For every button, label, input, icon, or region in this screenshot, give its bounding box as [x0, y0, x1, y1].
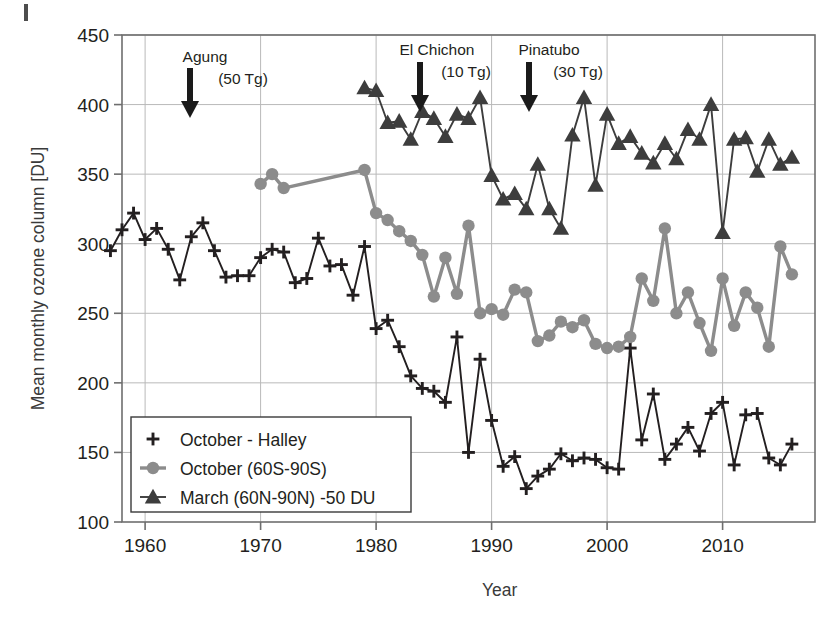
data-point-plus — [652, 388, 655, 401]
data-point-circle — [393, 225, 405, 237]
data-point-circle — [578, 314, 590, 326]
legend: October - HalleyOctober (60S-90S)March (… — [131, 417, 411, 512]
data-point-triangle — [403, 131, 419, 146]
data-point-circle — [786, 268, 798, 280]
data-point-plus — [352, 289, 355, 302]
annotation-arrow-head — [520, 95, 538, 112]
data-point-triangle — [472, 89, 488, 104]
data-point-plus — [698, 445, 701, 458]
annotation-mass: (30 Tg) — [553, 63, 603, 80]
data-point-circle — [147, 462, 159, 474]
data-point-plus — [767, 452, 770, 465]
data-point-triangle — [356, 80, 372, 95]
data-point-plus — [132, 207, 135, 220]
data-point-plus — [190, 230, 193, 243]
data-point-plus — [421, 382, 424, 395]
annotation-arrow-head — [411, 95, 429, 112]
data-point-plus — [152, 433, 155, 446]
data-point-circle — [740, 286, 752, 298]
data-point-plus — [617, 463, 620, 476]
legend-label: March (60N-90N) -50 DU — [180, 488, 375, 508]
y-tick-label: 200 — [77, 373, 109, 394]
data-point-plus — [248, 269, 251, 282]
data-point-plus — [305, 272, 308, 285]
data-point-plus — [121, 223, 124, 236]
data-point-plus — [559, 447, 562, 460]
annotation-arrow-head — [181, 101, 199, 118]
chart-canvas: 1001502002503003504004501960197019801990… — [0, 0, 836, 626]
data-point-triangle — [749, 163, 765, 178]
data-point-circle — [462, 219, 474, 231]
data-point-plus — [525, 482, 528, 495]
x-tick-label: 1970 — [239, 535, 281, 556]
data-point-triangle — [599, 106, 615, 121]
data-point-circle — [716, 272, 728, 284]
series-2 — [254, 164, 798, 357]
annotation-label: El Chichon — [400, 41, 475, 58]
data-point-circle — [254, 178, 266, 190]
data-point-plus — [225, 271, 228, 284]
data-point-plus — [109, 244, 112, 257]
data-point-plus — [328, 260, 331, 273]
data-point-plus — [710, 407, 713, 420]
data-point-circle — [682, 286, 694, 298]
data-point-plus — [744, 408, 747, 421]
data-point-circle — [728, 320, 740, 332]
data-point-plus — [317, 232, 320, 245]
x-axis-title: Year — [482, 580, 518, 600]
data-point-triangle — [530, 156, 546, 171]
data-point-plus — [375, 322, 378, 335]
annotation-agung: Agung(50 Tg) — [181, 48, 268, 118]
data-point-plus — [756, 407, 759, 420]
annotation-mass: (10 Tg) — [441, 63, 491, 80]
y-axis-title: Mean monthly ozone column [DU] — [28, 147, 48, 411]
data-point-circle — [612, 340, 624, 352]
data-point-circle — [278, 182, 290, 194]
data-point-triangle — [449, 106, 465, 121]
data-point-circle — [370, 207, 382, 219]
data-point-circle — [693, 317, 705, 329]
data-point-plus — [663, 453, 666, 466]
x-tick-label: 1990 — [470, 535, 512, 556]
data-point-triangle — [657, 135, 673, 150]
annotation-label: Pinatubo — [518, 41, 579, 58]
data-point-plus — [213, 244, 216, 257]
data-point-plus — [271, 243, 274, 256]
data-point-plus — [640, 434, 643, 447]
data-point-plus — [144, 233, 147, 246]
data-point-circle — [381, 214, 393, 226]
data-point-circle — [647, 295, 659, 307]
data-point-circle — [358, 164, 370, 176]
data-point-plus — [594, 453, 597, 466]
ozone-chart-figure: 1001502002503003504004501960197019801990… — [0, 0, 836, 626]
data-point-triangle — [761, 131, 777, 146]
data-point-circle — [474, 307, 486, 319]
data-point-plus — [502, 460, 505, 473]
x-tick-label: 2010 — [701, 535, 743, 556]
y-tick-label: 400 — [77, 95, 109, 116]
data-point-triangle — [564, 127, 580, 142]
data-point-plus — [409, 370, 412, 383]
data-point-circle — [451, 288, 463, 300]
data-point-circle — [485, 303, 497, 315]
data-point-plus — [178, 273, 181, 286]
data-point-triangle — [587, 177, 603, 192]
data-point-triangle — [703, 96, 719, 111]
data-point-triangle — [714, 224, 730, 239]
data-point-circle — [763, 340, 775, 352]
data-point-triangle — [668, 151, 684, 166]
data-point-circle — [589, 338, 601, 350]
y-tick-label: 100 — [77, 512, 109, 533]
data-point-circle — [532, 335, 544, 347]
data-point-circle — [509, 283, 521, 295]
data-point-circle — [416, 249, 428, 261]
data-point-triangle — [391, 113, 407, 128]
data-point-plus — [571, 454, 574, 467]
y-tick-label: 450 — [77, 25, 109, 46]
data-point-plus — [513, 450, 516, 463]
data-point-plus — [259, 251, 262, 264]
data-point-circle — [497, 308, 509, 320]
data-point-plus — [583, 452, 586, 465]
data-point-plus — [294, 276, 297, 289]
data-point-triangle — [507, 185, 523, 200]
